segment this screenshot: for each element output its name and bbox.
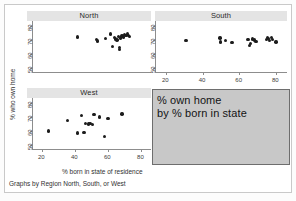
figure-canvas: North South West % own home by % born in… (0, 0, 296, 201)
x-tick-label: 40 (199, 77, 206, 83)
x-tick-label: 60 (104, 154, 111, 160)
scatter-point (224, 39, 227, 42)
y-tick-label: 60 (27, 52, 33, 59)
scatter-point (219, 40, 222, 43)
scatter-panel-south[interactable] (155, 21, 287, 73)
y-axis-title: % who own home (9, 69, 16, 120)
scatter-point (103, 135, 106, 138)
scatter-point (104, 37, 107, 40)
scatter-point (76, 131, 79, 134)
scatter-point (82, 131, 85, 134)
scatter-point (230, 41, 233, 44)
x-tick-label: 80 (272, 77, 279, 83)
x-axis-title: % born in state of residence (62, 168, 143, 175)
y-tick-label: 50 (150, 66, 156, 73)
scatter-point (91, 123, 94, 126)
x-tick-mark (108, 150, 109, 152)
y-tick-label: 60 (27, 129, 33, 136)
x-tick-mark (42, 150, 43, 152)
x-axis-line (32, 72, 151, 73)
y-tick-label: 70 (27, 115, 33, 122)
x-tick-label: 60 (235, 77, 242, 83)
scatter-point (118, 48, 121, 51)
x-tick-label: 20 (162, 77, 169, 83)
annotation-line-1: % own home (157, 94, 222, 106)
x-axis-line (32, 149, 151, 150)
x-tick-mark (75, 150, 76, 152)
panel-title-west: West (27, 88, 151, 98)
panel-title-south: South (155, 11, 287, 21)
scatter-point (249, 42, 252, 45)
y-tick-label: 70 (27, 38, 33, 45)
scatter-point (80, 114, 83, 117)
scatter-point (47, 129, 50, 132)
scatter-point (98, 115, 101, 118)
scatter-point (184, 39, 187, 42)
x-tick-label: 40 (71, 154, 78, 160)
scatter-point (106, 117, 109, 120)
scatter-point (96, 39, 99, 42)
scatter-panel-north[interactable] (32, 21, 151, 73)
scatter-point (218, 36, 221, 39)
x-tick-label: 20 (38, 154, 45, 160)
y-tick-label: 50 (27, 143, 33, 150)
annotation-box[interactable]: % own home by % born in state (152, 89, 290, 165)
x-tick-mark (203, 73, 204, 75)
x-tick-mark (276, 73, 277, 75)
y-tick-label: 80 (150, 25, 156, 32)
figure-caption: Graphs by Region North, South, or West (9, 180, 126, 187)
scatter-point (246, 38, 249, 41)
scatter-panel-west[interactable] (32, 98, 151, 150)
scatter-point (76, 35, 79, 38)
scatter-point (120, 112, 123, 115)
scatter-point (66, 119, 69, 122)
y-tick-label: 50 (27, 66, 33, 73)
x-tick-mark (239, 73, 240, 75)
scatter-point (274, 40, 277, 43)
y-tick-label: 70 (150, 38, 156, 45)
scatter-point (111, 45, 114, 48)
panel-title-north: North (27, 11, 151, 21)
y-tick-label: 80 (27, 25, 33, 32)
scatter-point (109, 32, 112, 35)
y-tick-label: 80 (27, 102, 33, 109)
annotation-line-2: by % born in state (157, 107, 247, 119)
x-tick-mark (166, 73, 167, 75)
x-tick-mark (141, 150, 142, 152)
x-axis-line (155, 72, 287, 73)
scatter-point (92, 113, 95, 116)
scatter-point (128, 35, 131, 38)
scatter-point (254, 40, 257, 43)
y-tick-label: 60 (150, 52, 156, 59)
x-tick-label: 80 (137, 154, 144, 160)
